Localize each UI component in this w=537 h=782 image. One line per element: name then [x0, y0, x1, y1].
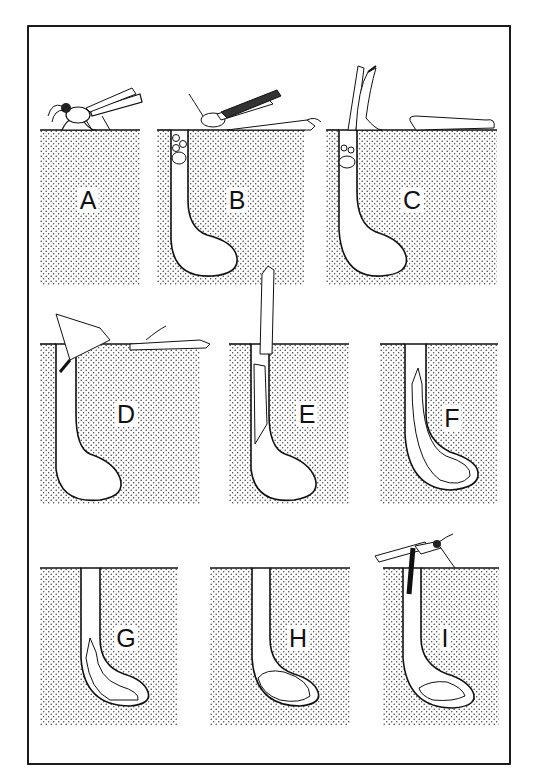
panel-label-h: H — [287, 625, 309, 651]
wasp-digging-icon — [40, 72, 160, 162]
wasp-with-prey-icon — [187, 90, 337, 140]
panel-b: B — [157, 130, 305, 285]
panel-g: G — [40, 568, 178, 726]
panel-a: A — [40, 130, 140, 285]
wasp-head-down-icon — [336, 58, 516, 138]
panel-label-c: C — [401, 187, 423, 213]
wasp-emerging-icon — [375, 534, 475, 594]
panel-label-f: F — [442, 405, 461, 431]
panel-c: C — [326, 130, 497, 285]
panel-f: F — [380, 344, 498, 504]
soil-block — [40, 568, 178, 726]
panel-h: H — [210, 568, 350, 726]
soil-block — [229, 344, 349, 504]
panel-label-i: I — [440, 625, 451, 651]
panel-i: I — [383, 568, 499, 726]
panel-label-g: G — [114, 625, 137, 651]
panel-label-a: A — [78, 187, 99, 213]
panel-label-b: B — [227, 187, 248, 213]
soil-block — [380, 344, 498, 504]
prey-caterpillar-icon — [254, 264, 284, 354]
panel-d: D — [40, 344, 200, 504]
panel-label-d: D — [115, 401, 137, 427]
panel-e: E — [229, 344, 349, 504]
wasp-dragging-prey-icon — [50, 310, 230, 370]
soil-block — [210, 568, 350, 726]
panel-label-e: E — [297, 401, 318, 427]
